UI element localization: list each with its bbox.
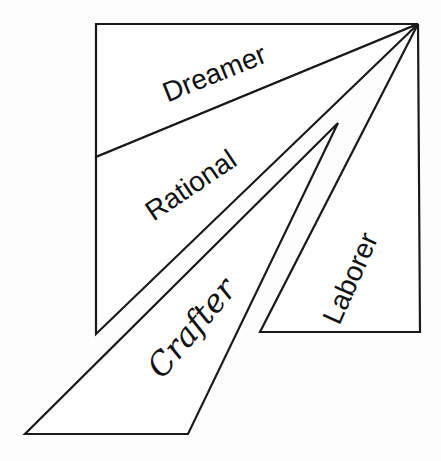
temperament-diagram: Dreamer Rational Laborer Crafter [0,0,441,461]
